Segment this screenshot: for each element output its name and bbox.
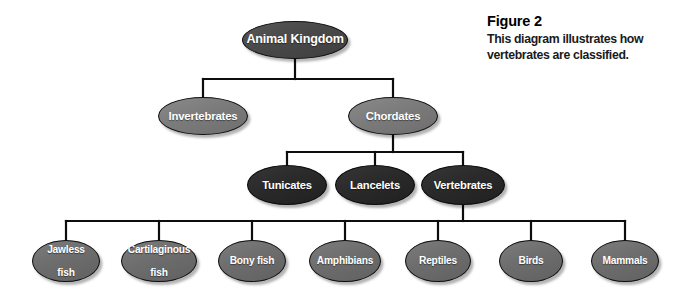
- node-birds-label: Birds: [515, 255, 546, 266]
- node-vertebrates-label: Vertebrates: [431, 179, 496, 191]
- node-mammals-label: Mammals: [599, 255, 650, 266]
- node-jawless-fish-label-line2: fish: [44, 267, 88, 278]
- node-amphibians-label: Amphibians: [314, 255, 376, 266]
- node-animal-kingdom[interactable]: Animal Kingdom: [242, 21, 348, 59]
- node-tunicates[interactable]: Tunicates: [247, 165, 327, 205]
- node-lancelets-label: Lancelets: [347, 179, 403, 191]
- node-chordates[interactable]: Chordates: [348, 97, 438, 135]
- node-reptiles[interactable]: Reptiles: [405, 240, 471, 282]
- node-jawless-fish[interactable]: Jawlessfish: [32, 240, 100, 282]
- node-cartilaginous-fish-label-line2: fish: [125, 267, 194, 278]
- figure-diagram-canvas: Figure 2 This diagram illustrates how ve…: [0, 0, 690, 295]
- node-cartilaginous-fish-label: Cartilaginousfish: [122, 244, 197, 277]
- node-tunicates-label: Tunicates: [259, 179, 315, 191]
- node-jawless-fish-label-line1: Jawless: [44, 244, 88, 255]
- node-mammals[interactable]: Mammals: [591, 240, 659, 282]
- node-vertebrates[interactable]: Vertebrates: [421, 165, 505, 205]
- node-amphibians[interactable]: Amphibians: [309, 240, 381, 282]
- node-lancelets[interactable]: Lancelets: [335, 165, 415, 205]
- node-bony-fish[interactable]: Bony fish: [218, 240, 286, 282]
- node-invertebrates-label: Invertebrates: [166, 110, 241, 122]
- node-chordates-label: Chordates: [363, 110, 424, 122]
- node-bony-fish-label: Bony fish: [227, 255, 278, 266]
- node-cartilaginous-fish-label-line1: Cartilaginous: [125, 244, 194, 255]
- node-invertebrates[interactable]: Invertebrates: [158, 97, 248, 135]
- node-reptiles-label: Reptiles: [416, 255, 460, 266]
- node-animal-kingdom-label: Animal Kingdom: [243, 33, 346, 47]
- node-jawless-fish-label: Jawlessfish: [41, 244, 91, 277]
- node-birds[interactable]: Birds: [499, 240, 563, 282]
- node-cartilaginous-fish[interactable]: Cartilaginousfish: [121, 240, 197, 282]
